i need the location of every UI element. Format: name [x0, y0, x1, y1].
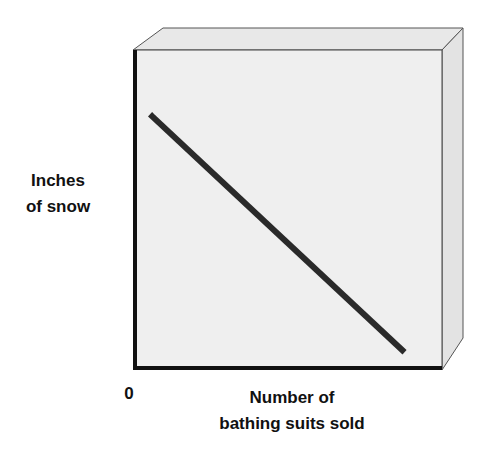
- origin-label: 0: [124, 384, 133, 403]
- x-axis-label-line2: bathing suits sold: [219, 414, 364, 433]
- y-axis-label-line1: Inches: [31, 171, 85, 190]
- box-top-face: [133, 28, 463, 50]
- chart: Inches of snow 0 Number of bathing suits…: [0, 0, 492, 453]
- x-axis-label-line1: Number of: [250, 388, 335, 407]
- box-side-face: [442, 28, 463, 370]
- x-axis: [133, 366, 442, 370]
- y-axis: [133, 50, 137, 370]
- y-axis-label-line2: of snow: [26, 197, 91, 216]
- plot-area: [135, 50, 442, 368]
